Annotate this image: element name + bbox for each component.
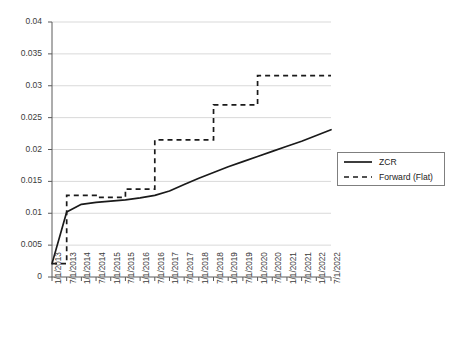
- x-axis-tick-label: 7/1/2021: [305, 252, 313, 284]
- x-axis-tick-label: 1/1/2022: [319, 252, 327, 284]
- x-axis-tick-label: 1/1/2014: [84, 252, 92, 284]
- y-axis-tick-label: 0.03: [0, 81, 42, 90]
- chart-legend: ZCR Forward (Flat): [337, 152, 445, 186]
- x-axis-tick-label: 7/1/2016: [158, 252, 166, 284]
- y-axis-tick-label: 0.015: [0, 176, 42, 185]
- legend-swatch-dashed: [343, 172, 373, 182]
- x-axis-tick-label: 7/1/2017: [187, 252, 195, 284]
- x-axis-tick-label: 1/1/2021: [290, 252, 298, 284]
- legend-label-forward-flat: Forward (Flat): [379, 173, 433, 182]
- y-axis-tick-label: 0.04: [0, 17, 42, 26]
- y-axis-tick-label: 0.005: [0, 240, 42, 249]
- x-axis-tick-label: 7/1/2015: [128, 252, 136, 284]
- legend-swatch-solid: [343, 157, 373, 167]
- x-axis-tick-label: 7/1/2013: [70, 252, 78, 284]
- x-axis-tick-label: 1/1/2018: [202, 252, 210, 284]
- x-axis-tick-label: 1/1/2016: [143, 252, 151, 284]
- x-axis-tick-label: 1/1/2020: [261, 252, 269, 284]
- x-axis-tick-label: 1/1/2015: [114, 252, 122, 284]
- y-axis-tick-label: 0.025: [0, 113, 42, 122]
- x-axis-tick-label: 7/1/2018: [217, 252, 225, 284]
- series-line-forward-flat: [52, 76, 331, 264]
- x-axis-tick-label: 1/1/2017: [172, 252, 180, 284]
- x-axis-tick-label: 7/1/2014: [99, 252, 107, 284]
- chart-container: 00.0050.010.0150.020.0250.030.0350.04 1/…: [0, 0, 452, 337]
- gridlines: [52, 22, 331, 245]
- y-axis-tick-label: 0.035: [0, 49, 42, 58]
- x-axis-tick-label: 7/1/2019: [246, 252, 254, 284]
- x-axis-tick-label: 7/1/2020: [275, 252, 283, 284]
- y-axis-tick-label: 0: [0, 272, 42, 281]
- y-axis-tick-label: 0.01: [0, 208, 42, 217]
- y-axis-tick-label: 0.02: [0, 145, 42, 154]
- legend-item-zcr: ZCR: [343, 155, 397, 169]
- x-axis-tick-label: 1/1/2013: [55, 252, 63, 284]
- legend-item-forward-flat: Forward (Flat): [343, 170, 433, 184]
- y-axis-ticks: [48, 22, 52, 277]
- x-axis-tick-label: 7/1/2022: [334, 252, 342, 284]
- x-axis-tick-label: 1/1/2019: [231, 252, 239, 284]
- legend-label-zcr: ZCR: [379, 158, 397, 167]
